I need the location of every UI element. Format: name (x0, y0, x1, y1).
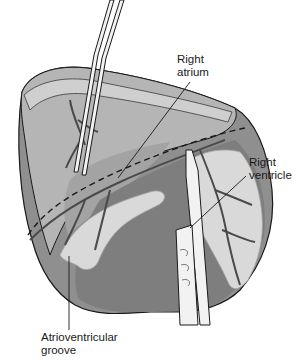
heart (19, 67, 273, 313)
label-right-ventricle: Right ventricle (249, 156, 292, 182)
label-atrioventricular-groove: Atrioventricular groove (41, 331, 118, 357)
label-right-atrium: Right atrium (177, 53, 209, 79)
